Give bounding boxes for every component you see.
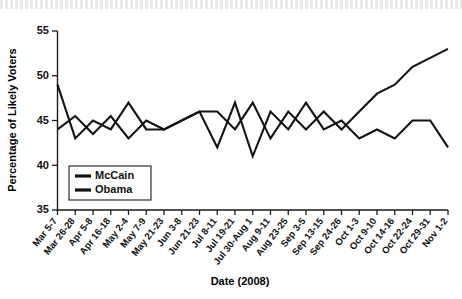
legend-label-mccain: McCain [95,169,134,181]
series-line-mccain [58,85,449,157]
y-tick-label-45: 45 [37,114,49,126]
x-axis-title: Date (2008) [211,275,270,287]
series-group [58,49,449,156]
chart-legend: McCain Obama [69,166,151,200]
y-tick-label-40: 40 [37,159,49,171]
y-tick-label-50: 50 [37,69,49,81]
series-line-obama [58,49,449,138]
y-axis-ticks: 55 50 45 40 35 [37,24,58,215]
y-axis-title: Percentage of Likely Voters [6,48,18,191]
x-axis-ticks [58,210,449,215]
legend-label-obama: Obama [95,183,133,195]
y-tick-label-35: 35 [37,203,49,215]
x-axis-tick-labels: Mar 5-7Mar 26-28Apr 5-8Apr 16-18May 2-4M… [30,215,450,267]
chart-container: Percentage of Likely Voters 55 50 45 40 … [0,0,462,299]
line-chart: Percentage of Likely Voters 55 50 45 40 … [0,0,462,299]
y-tick-label-55: 55 [37,24,49,36]
